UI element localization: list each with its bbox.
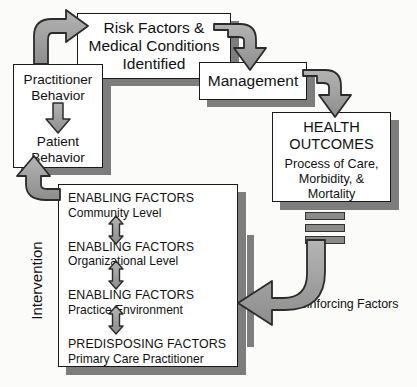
curved-arrow-behavior-to-risk — [34, 10, 88, 64]
curved-arrow-enabling-to-behavior — [17, 156, 60, 200]
arrow-layer — [0, 0, 417, 387]
arrow-practitioner-to-patient — [46, 103, 70, 133]
curved-arrow-management-to-health — [303, 70, 351, 117]
double-arrow-community-organizational — [109, 216, 123, 244]
diagram-canvas: Risk Factors & Medical Conditions Identi… — [0, 0, 417, 387]
double-arrow-organizational-practice — [109, 261, 123, 289]
double-arrow-practice-predisposing — [109, 306, 123, 334]
curved-arrow-reinforcing-factors — [238, 240, 325, 325]
curved-arrow-risk-to-management — [214, 24, 266, 70]
